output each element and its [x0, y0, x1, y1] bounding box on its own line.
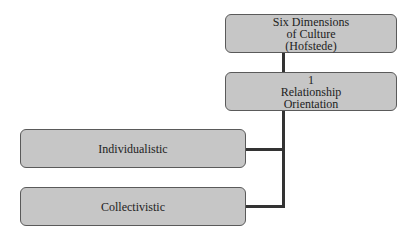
child-node-label: Collectivistic	[101, 201, 165, 213]
root-node-line-1: Six Dimensions	[273, 16, 349, 28]
dimension-node-number: 1	[308, 74, 314, 86]
dimension-node-line-2: Relationship	[281, 86, 342, 98]
connector-individualistic	[246, 148, 284, 151]
root-node-line-3: (Hofstede)	[285, 40, 336, 52]
dimension-node-relationship-orientation: 1 Relationship Orientation	[225, 72, 397, 111]
child-node-individualistic: Individualistic	[20, 129, 246, 168]
child-node-collectivistic: Collectivistic	[20, 187, 246, 226]
connector-collectivistic	[246, 205, 284, 208]
dimension-node-line-3: Orientation	[284, 98, 339, 110]
child-node-label: Individualistic	[98, 143, 167, 155]
root-node-six-dimensions: Six Dimensions of Culture (Hofstede)	[225, 14, 397, 53]
root-node-line-2: of Culture	[287, 28, 336, 40]
connector-root-to-dimension	[282, 52, 285, 73]
connector-dimension-trunk	[282, 110, 285, 208]
